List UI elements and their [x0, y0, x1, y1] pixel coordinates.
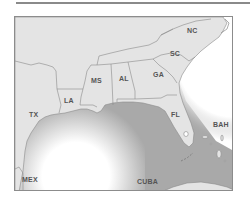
- label-nc: NC: [187, 27, 198, 34]
- label-cuba: CUBA: [137, 178, 158, 185]
- map-graphic: [15, 17, 233, 191]
- label-al: AL: [119, 75, 129, 82]
- top-divider: [16, 2, 250, 4]
- label-mex: MEX: [22, 176, 38, 183]
- label-ga: GA: [153, 71, 164, 78]
- label-sc: SC: [170, 50, 180, 57]
- gulf-region-map: [14, 16, 233, 191]
- label-la: LA: [64, 97, 74, 104]
- label-bah: BAH: [213, 121, 229, 128]
- label-fl: FL: [171, 111, 180, 118]
- label-ms: MS: [91, 77, 102, 84]
- label-tx: TX: [29, 111, 38, 118]
- lake-okeechobee: [184, 132, 188, 137]
